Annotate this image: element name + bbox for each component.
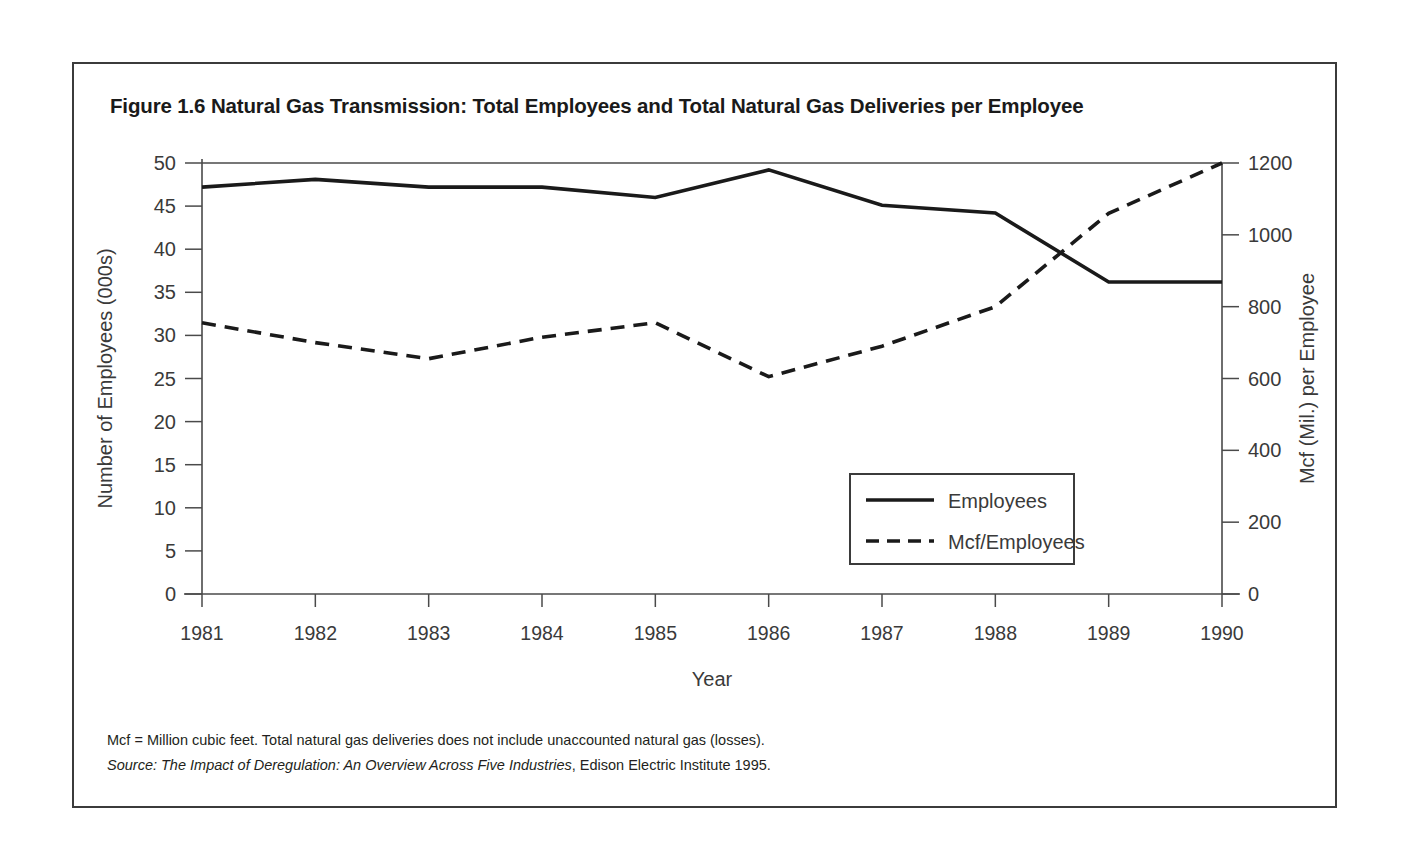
- line-chart: 0510152025303540455002004006008001000120…: [74, 64, 1339, 810]
- figure-frame: Figure 1.6 Natural Gas Transmission: Tot…: [72, 62, 1337, 808]
- x-tick-label: 1986: [747, 622, 790, 644]
- y-tick-label-right: 600: [1248, 368, 1281, 390]
- y-tick-label-left: 50: [154, 152, 176, 174]
- source-prefix: Source:: [107, 757, 157, 773]
- series-line-mcf-employees: [202, 163, 1222, 377]
- note-source: Source: The Impact of Deregulation: An O…: [107, 753, 1207, 778]
- y-tick-label-right: 0: [1248, 583, 1259, 605]
- y-axis-title-left: Number of Employees (000s): [94, 248, 116, 508]
- y-axis-title-right: Mcf (Mil.) per Employee: [1296, 273, 1318, 484]
- x-tick-label: 1982: [294, 622, 337, 644]
- x-tick-label: 1988: [974, 622, 1017, 644]
- y-tick-label-right: 400: [1248, 439, 1281, 461]
- y-tick-label-right: 1000: [1248, 224, 1293, 246]
- source-title: The Impact of Deregulation: An Overview …: [161, 757, 572, 773]
- figure-notes: Mcf = Million cubic feet. Total natural …: [107, 728, 1207, 778]
- legend-label: Mcf/Employees: [948, 531, 1085, 553]
- y-tick-label-left: 20: [154, 411, 176, 433]
- series-line-employees: [202, 170, 1222, 282]
- note-definition: Mcf = Million cubic feet. Total natural …: [107, 728, 1207, 753]
- x-tick-label: 1989: [1087, 622, 1130, 644]
- y-tick-label-left: 0: [165, 583, 176, 605]
- x-tick-label: 1987: [860, 622, 903, 644]
- y-tick-label-left: 5: [165, 540, 176, 562]
- y-tick-label-left: 10: [154, 497, 176, 519]
- x-tick-label: 1981: [180, 622, 223, 644]
- y-tick-label-left: 15: [154, 454, 176, 476]
- y-tick-label-left: 30: [154, 324, 176, 346]
- y-tick-label-left: 40: [154, 238, 176, 260]
- y-tick-label-left: 35: [154, 281, 176, 303]
- y-tick-label-right: 1200: [1248, 152, 1293, 174]
- y-tick-label-right: 800: [1248, 296, 1281, 318]
- legend-label: Employees: [948, 490, 1047, 512]
- source-rest: , Edison Electric Institute 1995.: [572, 757, 771, 773]
- x-tick-label: 1983: [407, 622, 450, 644]
- x-tick-label: 1985: [634, 622, 678, 644]
- y-tick-label-left: 25: [154, 368, 176, 390]
- y-tick-label-left: 45: [154, 195, 176, 217]
- x-axis-title: Year: [692, 668, 733, 690]
- x-tick-label: 1984: [520, 622, 564, 644]
- x-tick-label: 1990: [1200, 622, 1244, 644]
- y-tick-label-right: 200: [1248, 511, 1281, 533]
